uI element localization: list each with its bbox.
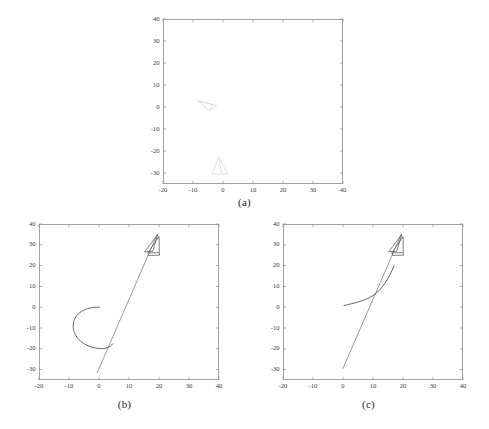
x-tick-label: 0 [341,382,345,389]
y-tick-label: 40 [29,220,36,227]
y-tick-label: -10 [27,324,36,331]
x-tick-label: 30 [186,382,193,389]
x-tick-label: 10 [250,186,257,193]
smooth-path [344,266,394,306]
panel-b: -20-10010203040-30-20-10010203040 [39,224,219,380]
y-tick-label: -20 [27,344,36,351]
plot-area-c: -20-10010203040-30-20-10010203040 [283,224,463,380]
x-tick-label: -10 [189,186,198,193]
y-tick-label: -10 [151,125,160,132]
x-tick-label: 40 [460,382,467,389]
y-tick-label: -20 [151,147,160,154]
y-tick-label: -30 [27,365,36,372]
x-tick-label: 20 [400,382,407,389]
axis-box-b [40,225,219,380]
y-tick-label: 40 [273,220,280,227]
x-tick-label: -10 [309,382,318,389]
x-tick-label: -20 [35,382,44,389]
plot-area-a: -20-10010203040-30-20-10010203040 [163,19,343,184]
y-tick-label: -20 [271,344,280,351]
panel-a: -20-10010203040-30-20-10010203040 [163,19,343,184]
y-tick-label: 0 [156,103,160,110]
x-tick-label: 40 [340,186,347,193]
x-tick-label: 30 [310,186,317,193]
y-tick-label: -10 [271,324,280,331]
x-tick-label: 30 [430,382,437,389]
x-tick-label: -10 [65,382,74,389]
y-tick-label: 30 [273,240,280,247]
y-tick-label: 20 [29,261,36,268]
x-tick-label: 20 [156,382,163,389]
y-tick-label: 30 [153,37,160,44]
panel-a-caption: (a) [0,196,489,208]
y-tick-label: -30 [271,365,280,372]
y-tick-label: 0 [32,303,36,310]
y-tick-label: 20 [153,59,160,66]
y-tick-label: 10 [273,282,280,289]
y-tick-label: -30 [151,169,160,176]
axis-box-c [284,225,463,380]
y-tick-label: 0 [276,303,280,310]
x-tick-label: -20 [279,382,288,389]
robot-triangle-outer [389,234,402,251]
y-tick-label: 10 [29,282,36,289]
robot-triangle-outer [145,234,158,251]
panel-c: -20-10010203040-30-20-10010203040 [283,224,463,380]
x-tick-label: 10 [370,382,377,389]
figure-container: -20-10010203040-30-20-10010203040 (a) -2… [0,0,489,429]
x-tick-label: 20 [280,186,287,193]
y-tick-label: 20 [273,261,280,268]
loop-path [73,307,113,348]
y-tick-label: 10 [153,81,160,88]
x-tick-label: 40 [216,382,223,389]
x-tick-label: 0 [97,382,101,389]
y-tick-label: 30 [29,240,36,247]
x-tick-label: 10 [126,382,133,389]
x-tick-label: 0 [221,186,225,193]
axis-box-a [164,20,343,184]
plot-area-b: -20-10010203040-30-20-10010203040 [39,224,219,380]
x-tick-label: -20 [159,186,168,193]
y-tick-label: 40 [153,15,160,22]
panel-c-caption: (c) [124,398,489,410]
start-pose-marker [198,101,218,111]
